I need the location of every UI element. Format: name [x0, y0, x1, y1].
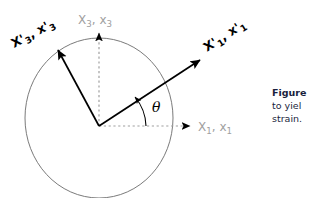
theta-symbol-label: θ — [152, 99, 161, 115]
figure-caption: Figure to yiel strain. — [272, 86, 310, 126]
axis-label-x3-X: X — [78, 13, 86, 27]
axis-x1-prime-line — [99, 60, 200, 126]
svg-text:X'1, x'1: X'1, x'1 — [200, 16, 249, 56]
caption-lead-label: Figure — [272, 86, 310, 99]
axis-label-x1-prime: X'1, x'1 — [200, 16, 249, 56]
axis-label-x3-x-sub: 3 — [106, 19, 112, 29]
figure-container: θ X3, x3 X1, x1 X'1, x'1 X'3, x'3 — [0, 0, 310, 198]
caption-line-3: strain. — [272, 112, 310, 125]
axis-label-x3-x: x — [99, 13, 106, 27]
axis-label-x1-x-sub: 1 — [226, 126, 232, 136]
axis-label-x1-X: X — [198, 120, 206, 134]
axis-label-x1-x: x — [219, 120, 226, 134]
svg-text:X1, x1: X1, x1 — [198, 120, 232, 136]
svg-text:X3, x3: X3, x3 — [78, 13, 112, 29]
axis-label-x3: X3, x3 — [78, 13, 112, 29]
caption-line-2: to yiel — [272, 99, 310, 112]
axis-label-x1: X1, x1 — [198, 120, 232, 136]
svg-text:X'3, x'3: X'3, x'3 — [8, 15, 57, 52]
axis-x3-prime-line — [58, 50, 99, 126]
coordinate-rotation-diagram: θ X3, x3 X1, x1 X'1, x'1 X'3, x'3 — [0, 0, 310, 198]
axis-label-x3-prime: X'3, x'3 — [8, 15, 57, 52]
